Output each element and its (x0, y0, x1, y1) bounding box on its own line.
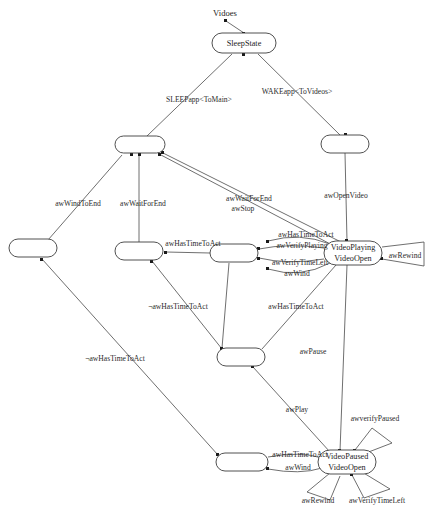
edge-paused-self-verifypaused (355, 428, 392, 453)
arrow-dot (224, 19, 227, 22)
edge-label-sleepapp-tomain: SLEEPapp<ToMain> (166, 95, 232, 104)
arrow-dot (164, 251, 167, 254)
edge-playing-to-paused (340, 265, 347, 451)
node-top-right[interactable] (321, 135, 369, 153)
edge-midcenter-to-midleft (166, 252, 210, 253)
edge-label-awverifytimeleft-paused: awVerifyTimeLeft (349, 496, 406, 505)
node-shape[interactable] (321, 135, 369, 153)
edge-topleft-to-farleft (48, 155, 122, 240)
edge-label-awhastimetoact-top: awHasTimeToAct (278, 230, 334, 239)
edge-label-awwindtoend: awWindToEnd (55, 199, 101, 208)
arrow-dot (158, 153, 161, 156)
edge-label-not-awhastimetoact-a: ¬awHasTimeToAct (148, 302, 208, 311)
node-label: SleepState (227, 39, 262, 48)
edge-label-awwind-mid: awWind (284, 269, 310, 278)
edge-label-awpause: awPause (300, 347, 327, 356)
node-label-line2: VideoOpen (328, 463, 365, 472)
edge-label-awwaitforend-left: awWaitForEnd (120, 199, 166, 208)
edge-midcenter-to-botmid (222, 263, 229, 348)
edge-label-awplay: awPlay (286, 405, 309, 414)
diagram-caption: Vidoes (213, 8, 237, 18)
node-far-left[interactable] (9, 239, 57, 257)
edge-label-not-awhastimetoact-b: ¬awHasTimeToAct (85, 354, 145, 363)
edge-caption-tick (226, 21, 244, 33)
node-label-line1: VideoPlaying (331, 243, 376, 252)
node-shape[interactable] (217, 348, 265, 366)
edge-label-awverifytimeleft: awVerifyTimeLeft (272, 258, 329, 267)
edge-label-awwind-bot: awWind (285, 463, 311, 472)
node-label-line2: VideoOpen (334, 254, 371, 263)
edge-label-awrewind-playing: awRewind (389, 251, 422, 260)
node-label-line1: VideoPaused (326, 452, 369, 461)
arrow-dot (242, 53, 245, 56)
node-video-playing[interactable]: VideoPlaying VideoOpen (324, 241, 382, 265)
arrow-dot (257, 257, 260, 260)
state-diagram-canvas: SleepState VideoPlaying VideoOpen (0, 0, 438, 520)
edge-label-awhastimetoact-low: awHasTimeToAct (268, 302, 324, 311)
state-diagram-svg: SleepState VideoPlaying VideoOpen (0, 0, 438, 520)
edge-label-awopenvideo: awOpenVideo (324, 191, 368, 200)
edge-label-awverifypaused: awverifyPaused (351, 414, 400, 423)
node-shape[interactable] (115, 136, 165, 153)
edge-label-wakeapp-tovideos: WAKEapp<ToVideos> (262, 87, 332, 96)
node-shape[interactable] (115, 242, 163, 260)
arrow-dot (266, 267, 269, 270)
edge-paused-self-verifytimeleft (352, 472, 390, 498)
edge-label-awverifyplaying: awVerifyPlaying (276, 241, 327, 250)
edge-label-awhastimetoact-bot: awHasTimeToAct (272, 450, 328, 459)
arrow-dot (40, 258, 43, 261)
edge-label-awwaitforend-diag: awWaitForEnd (226, 194, 272, 203)
edge-label-awstop: awStop (232, 204, 255, 213)
node-bottom-left[interactable] (216, 453, 268, 471)
node-mid-left[interactable] (115, 242, 163, 260)
node-shape[interactable] (216, 453, 268, 471)
edge-label-awrewind-paused: awRewind (302, 496, 335, 505)
node-bottom-mid[interactable] (217, 348, 265, 366)
arrow-dot (266, 240, 269, 243)
node-top-left[interactable] (115, 136, 165, 153)
node-sleep-state[interactable]: SleepState (212, 33, 276, 53)
node-shape[interactable] (9, 239, 57, 257)
edge-label-awhastimetoact-mid: awHasTimeToAct (165, 239, 221, 248)
